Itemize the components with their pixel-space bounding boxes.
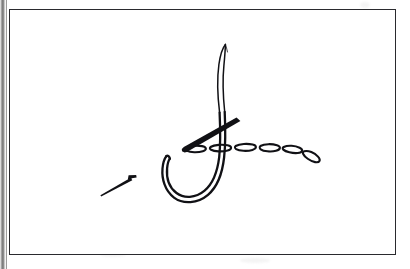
gutter-edge-line — [6, 0, 7, 269]
scanned-page: Chain stitch being worked with a curved … — [0, 0, 410, 269]
illustration-frame — [9, 9, 396, 255]
paper-blotch — [360, 2, 370, 8]
paper-blotch — [240, 258, 270, 263]
